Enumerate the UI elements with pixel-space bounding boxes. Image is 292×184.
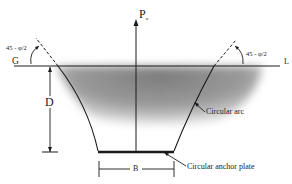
soil-failure-zone bbox=[56, 66, 262, 135]
load-label: Pu bbox=[139, 8, 148, 21]
load-arrowhead bbox=[134, 19, 139, 26]
angle-label-left: 45 - φ/2 bbox=[6, 45, 27, 52]
plate-label: Circular anchor plate bbox=[187, 163, 255, 171]
left-angle-arc bbox=[31, 46, 39, 64]
left-dashed-extension bbox=[36, 38, 58, 66]
right-angle-arc bbox=[235, 46, 243, 64]
depth-arrowhead-top bbox=[48, 67, 52, 72]
breakout-diagram bbox=[0, 0, 292, 184]
load-symbol: P bbox=[139, 7, 146, 21]
angle-label-right: 45 - φ/2 bbox=[246, 51, 267, 58]
arc-label: Circular arc bbox=[206, 108, 244, 116]
depth-label: D bbox=[45, 96, 54, 108]
depth-arrowhead-bottom bbox=[48, 147, 52, 152]
width-label: B bbox=[133, 165, 138, 173]
load-subscript: u bbox=[146, 16, 149, 21]
ground-label-right: L bbox=[284, 58, 289, 66]
plate-leader-line bbox=[165, 153, 186, 166]
right-dashed-extension bbox=[214, 40, 236, 66]
ground-label-left: G bbox=[12, 57, 19, 67]
